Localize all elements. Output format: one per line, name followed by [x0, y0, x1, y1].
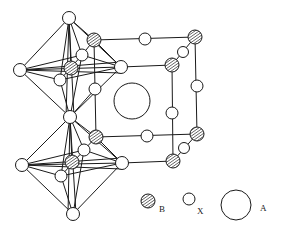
- atom-b: [165, 58, 179, 72]
- legend-a-label: A: [260, 203, 267, 213]
- atom-b: [166, 154, 180, 168]
- atom-a-center: [114, 83, 150, 119]
- legend-x-label: X: [197, 206, 204, 216]
- atom-x: [179, 143, 190, 154]
- legend-item-b: B: [141, 194, 165, 214]
- legend-a-symbol: [221, 190, 251, 220]
- atom-x: [89, 83, 101, 95]
- legend-item-x: X: [183, 193, 204, 216]
- atom-b: [89, 130, 103, 144]
- perovskite-structure-diagram: B X A: [0, 0, 281, 235]
- legend-b-label: B: [159, 204, 165, 214]
- atom-b: [190, 127, 204, 141]
- atom-b: [87, 33, 101, 47]
- atom-x: [54, 74, 66, 86]
- atom-x: [14, 64, 27, 77]
- atom-b: [64, 61, 78, 75]
- atom-x: [191, 80, 203, 92]
- atom-b: [65, 155, 79, 169]
- atom-b: [188, 30, 202, 44]
- atom-x: [141, 130, 153, 142]
- atom-x: [178, 47, 189, 58]
- atom-x: [115, 61, 128, 74]
- legend-x-symbol: [183, 193, 195, 205]
- legend-b-symbol: [141, 194, 155, 208]
- atom-x: [78, 144, 90, 156]
- atom-x: [139, 33, 151, 45]
- x-atoms: [14, 12, 204, 221]
- atom-x: [166, 107, 178, 119]
- atom-x: [63, 12, 76, 25]
- atom-x: [55, 170, 67, 182]
- legend: B X A: [141, 190, 267, 220]
- atom-x: [76, 49, 88, 61]
- atom-x: [64, 111, 77, 124]
- atom-x: [116, 157, 129, 170]
- legend-item-a: A: [221, 190, 267, 220]
- atom-x: [16, 159, 29, 172]
- atom-x: [67, 208, 80, 221]
